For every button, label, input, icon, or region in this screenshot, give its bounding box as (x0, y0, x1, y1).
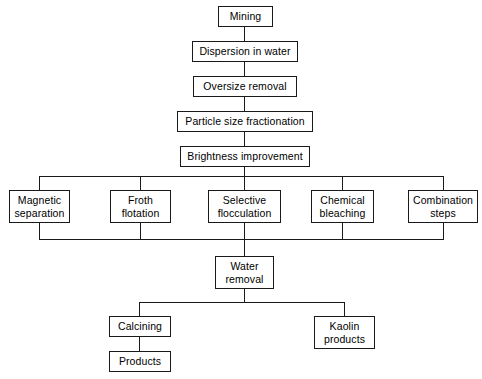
edge-bus-to-magnetic-separation (39, 176, 40, 190)
node-kaolin-products[interactable]: Kaolin products (314, 316, 375, 349)
node-oversize-removal-label: Oversize removal (203, 80, 286, 92)
edge-merge-bus-bottom (39, 239, 444, 240)
edge-oversize-to-particle-size (244, 97, 245, 111)
node-froth-flotation-label: Froth flotation (122, 194, 160, 219)
edge-bus-to-selective-flocculation (244, 176, 245, 190)
node-products[interactable]: Products (109, 351, 171, 372)
edge-froth-flotation-to-merge-bus (140, 223, 141, 240)
node-magnetic-separation[interactable]: Magnetic separation (9, 190, 70, 223)
node-dispersion-in-water[interactable]: Dispersion in water (192, 41, 298, 62)
node-combination-steps-label: Combination steps (413, 194, 473, 219)
edge-water-removal-to-product-bus (244, 289, 245, 303)
node-selective-flocculation-label: Selective flocculation (218, 194, 272, 219)
edge-split-bus-top (39, 176, 444, 177)
edge-merge-bus-to-water-removal (244, 239, 245, 256)
edge-combination-steps-to-merge-bus (443, 223, 444, 240)
edge-calcining-to-products (139, 337, 140, 351)
edge-bus-to-froth-flotation (140, 176, 141, 190)
node-particle-size-fractionation-label: Particle size fractionation (185, 115, 304, 127)
node-calcining-label: Calcining (118, 320, 162, 332)
node-products-label: Products (119, 355, 161, 367)
node-kaolin-products-label: Kaolin products (324, 320, 365, 345)
node-water-removal-label: Water removal (225, 260, 263, 285)
node-oversize-removal[interactable]: Oversize removal (193, 76, 297, 97)
node-combination-steps[interactable]: Combination steps (408, 190, 478, 223)
node-water-removal[interactable]: Water removal (215, 256, 274, 289)
node-brightness-improvement[interactable]: Brightness improvement (180, 146, 310, 167)
edge-product-bus-to-calcining (139, 302, 140, 317)
edge-product-bus-to-kaolin-products (344, 302, 345, 317)
edge-mining-to-dispersion (244, 27, 245, 41)
edge-dispersion-to-oversize (244, 62, 245, 76)
edge-magnetic-separation-to-merge-bus (39, 223, 40, 240)
edge-selective-flocculation-to-merge-bus (244, 223, 245, 240)
edge-chemical-bleaching-to-merge-bus (342, 223, 343, 240)
edge-bus-to-combination-steps (443, 176, 444, 190)
node-chemical-bleaching-label: Chemical bleaching (320, 194, 366, 219)
node-magnetic-separation-label: Magnetic separation (14, 194, 64, 219)
node-calcining[interactable]: Calcining (109, 316, 171, 337)
node-selective-flocculation[interactable]: Selective flocculation (208, 190, 281, 223)
node-chemical-bleaching[interactable]: Chemical bleaching (311, 190, 374, 223)
flowchart-canvas: Mining Dispersion in water Oversize remo… (0, 0, 482, 379)
edge-particle-size-to-brightness (244, 132, 245, 146)
node-dispersion-in-water-label: Dispersion in water (199, 45, 290, 57)
node-brightness-improvement-label: Brightness improvement (187, 150, 302, 162)
node-particle-size-fractionation[interactable]: Particle size fractionation (177, 111, 313, 132)
node-mining-label: Mining (230, 10, 262, 22)
node-mining[interactable]: Mining (218, 6, 273, 27)
node-froth-flotation[interactable]: Froth flotation (110, 190, 171, 223)
edge-product-split-bus (139, 302, 345, 303)
edge-bus-to-chemical-bleaching (342, 176, 343, 190)
